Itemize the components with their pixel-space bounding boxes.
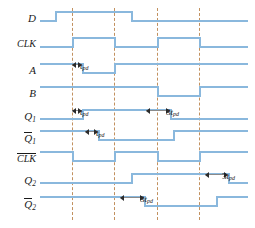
- delay-marker-arrow-left-3: [146, 108, 150, 114]
- signal-label-CLKbar: CLK: [0, 153, 36, 164]
- delay-label-tpd-Q1bar: tpd: [96, 129, 104, 139]
- waveform-CLK-level-1: [72, 37, 114, 39]
- delay-marker-arrow-left-4: [205, 172, 209, 178]
- signal-label-A: A: [0, 65, 36, 76]
- delay-label-tpd-Q1: tpd: [80, 108, 88, 118]
- waveform-Q1-level-tail: [170, 118, 248, 120]
- signal-label-Q1bar: Q1: [0, 132, 36, 145]
- delay-label-subscript-tpd-Q1bar: pd: [99, 132, 105, 138]
- signal-label-subscript-Q2bar: 2: [32, 203, 36, 212]
- waveform-CLKbar-level-2: [114, 151, 157, 153]
- waveform-CLK-level-tail: [199, 46, 248, 48]
- waveform-D-level-1: [55, 11, 131, 13]
- waveform-CLKbar-level-1: [72, 160, 114, 162]
- waveform-CLK-level-2: [114, 46, 157, 48]
- waveform-A-level-tail: [114, 63, 248, 65]
- signal-label-subscript-Q1: 1: [32, 115, 36, 124]
- signal-label-D: D: [0, 13, 36, 24]
- delay-label-3tpd-Q2bar: 3tpd: [140, 195, 153, 205]
- delay-marker-arrow-left-2: [85, 129, 89, 135]
- waveform-CLKbar-level-0: [40, 151, 72, 153]
- delay-label-subscript-3tpd-Q2: pd: [229, 175, 235, 181]
- delay-label-3tpd-Q2: 3tpd: [222, 172, 235, 182]
- delay-label-subscript-3tpd-Q1: pd: [173, 111, 179, 117]
- waveform-A-level-1: [82, 72, 114, 74]
- signal-label-text-A: A: [29, 64, 36, 76]
- waveform-Q2bar-level-1: [144, 205, 216, 207]
- delay-label-subscript-3tpd-Q2bar: pd: [147, 198, 153, 204]
- delay-label-3tpd-Q1: 3tpd: [166, 108, 179, 118]
- waveform-CLKbar-level-3: [157, 160, 199, 162]
- waveform-Q1bar-level-1: [98, 139, 173, 141]
- waveform-CLKbar-level-tail: [199, 151, 248, 153]
- signal-label-text-CLK: CLK: [17, 38, 36, 49]
- delay-label-subscript-tpd-Q1: pd: [83, 111, 89, 117]
- signal-label-Q2: Q2: [0, 175, 36, 187]
- waveform-D-level-0: [40, 20, 55, 22]
- waveform-Q1bar-level-tail: [173, 130, 248, 132]
- waveform-B-level-tail: [199, 86, 248, 88]
- delay-label-subscript-tpd-A: pd: [83, 65, 89, 71]
- signal-label-Q1: Q1: [0, 111, 36, 123]
- waveform-B-level-1: [157, 95, 199, 97]
- waveform-CLK-level-3: [157, 37, 199, 39]
- waveform-Q2bar-level-tail: [216, 196, 248, 198]
- delay-marker-arrow-left-1: [72, 108, 76, 114]
- waveform-Q1-level-0: [40, 118, 82, 120]
- timing-diagram: DCLKABQ1Q1CLKQ2Q2tpdtpdtpd3tpd3tpd3tpd: [0, 0, 255, 228]
- delay-marker-arrow-left-0: [72, 62, 76, 68]
- signal-label-Q2bar: Q2: [0, 198, 36, 211]
- waveform-Q2-level-0: [40, 182, 131, 184]
- waveform-Q2-level-tail: [228, 182, 248, 184]
- waveform-CLK-level-0: [40, 46, 72, 48]
- waveform-B-level-0: [40, 86, 157, 88]
- signal-label-text-B: B: [29, 87, 36, 99]
- waveform-D-level-tail: [131, 20, 248, 22]
- delay-label-tpd-A: tpd: [80, 62, 88, 72]
- signal-label-text-D: D: [28, 12, 36, 24]
- delay-marker-arrow-left-5: [120, 195, 124, 201]
- signal-label-subscript-Q1bar: 1: [32, 137, 36, 146]
- signal-label-B: B: [0, 88, 36, 99]
- signal-label-CLK: CLK: [0, 39, 36, 49]
- signal-label-subscript-Q2: 2: [32, 179, 36, 188]
- signal-label-text-CLKbar: CLK: [17, 153, 36, 164]
